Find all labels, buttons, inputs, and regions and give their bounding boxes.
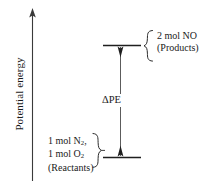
- reactants-label-line-1: 1 mol N2,: [48, 136, 94, 147]
- reactants-label: 1 mol N2, 1 mol O2 (Reactants): [48, 136, 94, 173]
- left-curly-brace-icon: [144, 31, 153, 62]
- products-label-line-2: (Products): [157, 43, 199, 53]
- right-curly-brace-icon: [93, 134, 102, 168]
- potential-energy-diagram: Potential energy 2 mol NO (Products) 1 m…: [0, 0, 202, 188]
- reactants-label-line-3: (Reactants): [48, 163, 94, 173]
- potential-energy-axis: [29, 8, 36, 181]
- products-label-line-1: 2 mol NO: [157, 31, 199, 41]
- axis-title-potential-energy: Potential energy: [14, 0, 28, 188]
- delta-pe-label: ΔPE: [101, 94, 122, 107]
- reactants-label-line-2: 1 mol O2: [48, 149, 94, 160]
- products-label: 2 mol NO (Products): [157, 31, 199, 53]
